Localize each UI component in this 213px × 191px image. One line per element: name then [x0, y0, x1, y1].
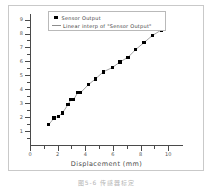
y-axis-tick: [25, 34, 30, 35]
y-axis-minor-tick: [27, 27, 30, 28]
data-point: [47, 123, 50, 126]
figure-container: 1234567890246810 Sensor Output (mV) Disp…: [0, 0, 213, 191]
legend-line-marker-icon: [52, 25, 61, 26]
data-point: [111, 66, 114, 69]
y-axis-tick: [25, 61, 30, 62]
legend-entry-linear-interp: Linear interp of "Sensor Output": [52, 22, 162, 30]
y-axis-minor-tick: [27, 82, 30, 83]
x-axis-minor-tick: [44, 146, 45, 149]
legend-label: Linear interp of "Sensor Output": [63, 23, 152, 29]
y-axis-minor-tick: [27, 138, 30, 139]
y-axis-tick-label: 3: [6, 101, 23, 106]
y-axis-tick: [25, 89, 30, 90]
x-axis-tick-label: 10: [161, 152, 175, 157]
y-axis-tick: [25, 103, 30, 104]
x-axis-line: [30, 145, 183, 146]
data-point: [79, 91, 82, 94]
x-axis-tick-label: 0: [23, 152, 37, 157]
legend-entry-sensor-output: Sensor Output: [52, 14, 162, 22]
y-axis-tick-label: 6: [6, 59, 23, 64]
data-point: [102, 70, 105, 73]
data-point: [151, 34, 154, 37]
x-axis-minor-tick: [127, 146, 128, 149]
x-axis-tick-label: 2: [51, 152, 65, 157]
x-axis-minor-tick: [99, 146, 100, 149]
y-axis-tick-label: 7: [6, 45, 23, 50]
y-axis-minor-tick: [27, 110, 30, 111]
data-point: [134, 48, 137, 51]
y-axis-minor-tick: [27, 96, 30, 97]
y-axis-tick-label: 8: [6, 31, 23, 36]
x-axis-minor-tick: [154, 146, 155, 149]
x-axis-tick-label: 8: [134, 152, 148, 157]
y-axis-tick: [25, 131, 30, 132]
y-axis-minor-tick: [27, 40, 30, 41]
y-axis-minor-tick: [27, 54, 30, 55]
data-point: [52, 116, 55, 119]
legend-label: Sensor Output: [62, 15, 101, 21]
y-axis-tick-label: 5: [6, 73, 23, 78]
data-point: [142, 41, 145, 44]
y-axis-tick: [25, 20, 30, 21]
x-axis-tick-label: 4: [78, 152, 92, 157]
y-axis-tick-label: 2: [6, 115, 23, 120]
y-axis-tick: [25, 75, 30, 76]
data-point: [94, 77, 97, 80]
data-point: [57, 115, 60, 118]
x-axis-label: Displacement (mm): [30, 160, 183, 168]
y-axis-minor-tick: [27, 124, 30, 125]
data-point: [72, 98, 75, 101]
figure-caption: 图5-6 传感器标定: [0, 178, 213, 187]
y-axis-tick: [25, 47, 30, 48]
y-axis-tick: [25, 117, 30, 118]
data-point: [66, 103, 69, 106]
data-point: [87, 83, 90, 86]
y-axis-tick-label: 4: [6, 87, 23, 92]
y-axis-tick-label: 9: [6, 17, 23, 22]
y-axis-minor-tick: [27, 68, 30, 69]
interpolation-line: [30, 14, 182, 145]
data-point: [61, 111, 64, 114]
plot-area: [30, 14, 182, 145]
data-point: [118, 60, 121, 63]
legend-square-marker-icon: [54, 16, 58, 20]
data-point: [126, 56, 129, 59]
y-axis-tick-label: 1: [6, 129, 23, 134]
x-axis-minor-tick: [71, 146, 72, 149]
legend-box: Sensor Output Linear interp of "Sensor O…: [48, 11, 166, 31]
x-axis-tick-label: 6: [106, 152, 120, 157]
